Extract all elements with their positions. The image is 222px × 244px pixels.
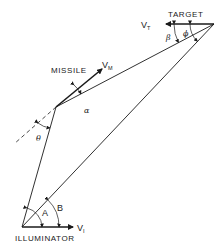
missile-velocity-label: VM [102, 60, 113, 71]
dashed-extension-line [14, 107, 56, 144]
angle-beta-arc [174, 24, 179, 43]
angle-phi-label: ϕ [183, 29, 189, 38]
angle-theta-label: θ [36, 134, 41, 143]
target-velocity-label: VT [141, 20, 151, 31]
angle-A-label: A [42, 208, 48, 218]
missile-label: MISSILE [51, 66, 87, 75]
geometry-diagram: TARGET MISSILE ILLUMINATOR VT VM VI β ϕ … [0, 0, 222, 244]
angle-B-label: B [57, 203, 63, 213]
angle-theta-arc [38, 123, 50, 128]
angle-A-arc [27, 208, 42, 227]
angle-phi-arc [190, 24, 198, 41]
target-label: TARGET [168, 10, 203, 19]
angle-beta-label: β [165, 33, 171, 42]
illuminator-label: ILLUMINATOR [15, 234, 75, 243]
angle-alpha-label: α [84, 106, 90, 115]
illuminator-velocity-label: VI [77, 223, 85, 234]
